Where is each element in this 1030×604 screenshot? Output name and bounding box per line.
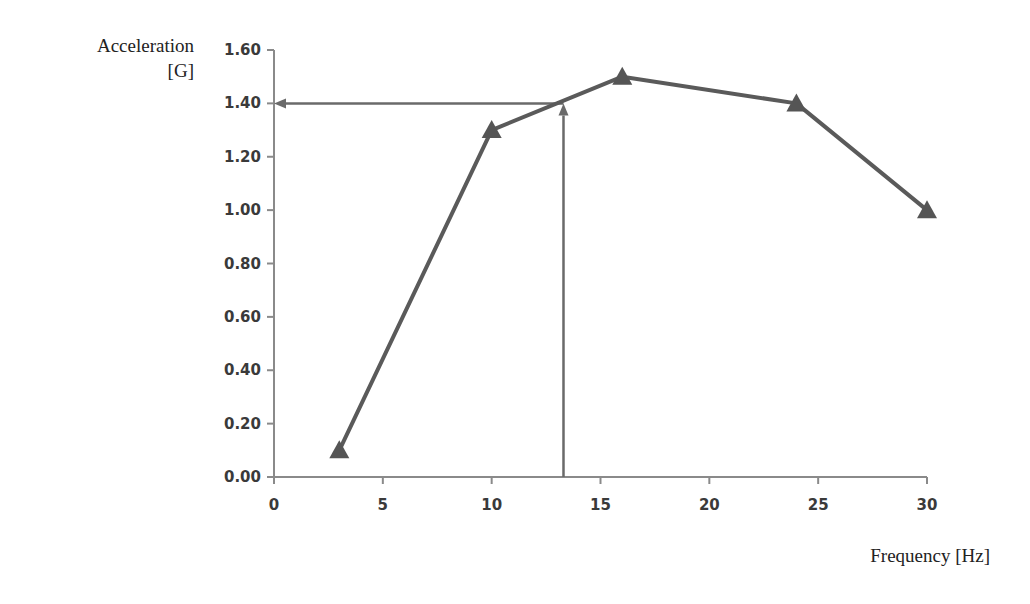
chart: Acceleration [G] 0.000.200.400.600.801.0…	[0, 0, 1030, 604]
y-tick-label: 1.40	[224, 94, 261, 112]
y-tick-label: 1.20	[224, 148, 261, 166]
x-tick-label: 15	[590, 496, 611, 514]
y-tick-label: 0.20	[224, 415, 261, 433]
y-axis-label-line1: Acceleration	[97, 35, 195, 56]
triangle-marker-icon	[612, 67, 632, 85]
arrowhead-icon	[558, 103, 568, 115]
triangle-marker-icon	[329, 440, 349, 458]
x-tick-label: 20	[699, 496, 720, 514]
x-tick-label: 5	[378, 496, 388, 514]
arrowhead-icon	[274, 98, 286, 108]
y-tick-label: 0.40	[224, 361, 261, 379]
x-axis-label: Frequency [Hz]	[870, 545, 990, 566]
reference-arrows	[274, 98, 568, 477]
y-axis-label-line2: [G]	[168, 60, 194, 81]
y-tick-label: 1.00	[224, 201, 261, 219]
series-line	[339, 77, 927, 451]
y-tick-label: 1.60	[224, 41, 261, 59]
x-tick-label: 30	[917, 496, 938, 514]
data-series	[329, 67, 937, 459]
x-tick-label: 10	[481, 496, 502, 514]
x-axis-ticks: 051015202530	[269, 477, 938, 514]
y-tick-label: 0.00	[224, 468, 261, 486]
x-tick-label: 25	[808, 496, 829, 514]
y-tick-label: 0.80	[224, 255, 261, 273]
y-tick-label: 0.60	[224, 308, 261, 326]
y-axis-ticks: 0.000.200.400.600.801.001.201.401.60	[224, 41, 274, 486]
x-tick-label: 0	[269, 496, 279, 514]
